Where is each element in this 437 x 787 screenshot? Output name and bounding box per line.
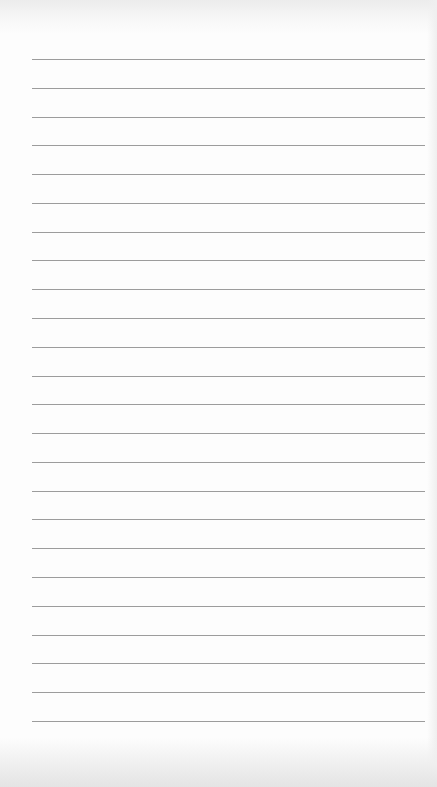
bottom-shadow [0,737,437,787]
ruled-line [32,462,425,463]
ruled-line [32,260,425,261]
ruled-line [32,692,425,693]
ruled-line [32,606,425,607]
ruled-line [32,519,425,520]
ruled-line [32,318,425,319]
ruled-line [32,721,425,722]
ruled-line [32,117,425,118]
top-shadow [0,0,437,34]
ruled-line [32,203,425,204]
ruled-line [32,145,425,146]
ruled-line [32,376,425,377]
ruled-line [32,174,425,175]
ruled-line [32,577,425,578]
ruled-line [32,433,425,434]
right-shadow [427,0,437,787]
ruled-line [32,404,425,405]
ruled-line [32,88,425,89]
lined-paper-sheet [0,0,437,787]
ruled-line [32,289,425,290]
ruled-line [32,59,425,60]
ruled-line [32,347,425,348]
ruled-line [32,663,425,664]
ruled-line [32,548,425,549]
ruled-line [32,491,425,492]
ruled-line [32,232,425,233]
ruled-line [32,635,425,636]
